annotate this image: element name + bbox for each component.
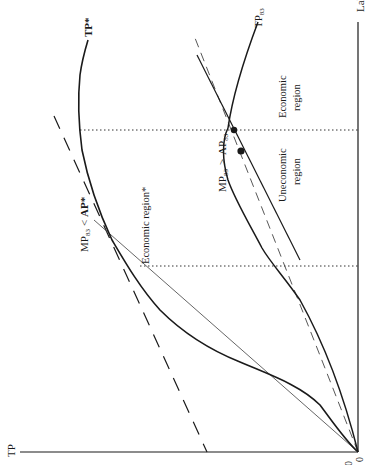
svg-text:MP83<AP*: MP83<AP* xyxy=(78,196,92,252)
y-axis-label: TP xyxy=(5,444,17,457)
economic-region-star-label: Economic region* xyxy=(140,187,151,264)
x-axis-label: Lab xyxy=(354,0,366,12)
tp83-label: TP83 xyxy=(252,8,266,28)
economic-region-label-line1: Economic xyxy=(277,75,288,118)
svg-text:TP83: TP83 xyxy=(252,8,266,28)
economic-region-label-line2: region xyxy=(291,83,302,111)
uneconomic-region-label-line1: Uneconomic xyxy=(277,148,288,202)
tangency-point-lower xyxy=(237,147,244,154)
mp-lt-ap-star-label: MP83<AP* xyxy=(78,196,92,252)
origin-y-tick: 0 xyxy=(343,461,354,465)
tp-star-curve xyxy=(79,40,358,452)
mp-gt-ap83-label: MP83>AP83 xyxy=(216,133,230,192)
long-dash-ray xyxy=(54,116,207,452)
svg-text:MP83>AP83: MP83>AP83 xyxy=(216,133,230,192)
origin-x-tick: 0 xyxy=(354,457,365,462)
uneconomic-region-label-line2: region xyxy=(291,157,302,185)
production-diagram: TP Lab 0 0 TP* TP83 MP83<AP* MP83>AP83 E… xyxy=(0,0,376,465)
tangency-point-upper xyxy=(231,127,237,133)
tp-star-label: TP* xyxy=(82,17,94,37)
